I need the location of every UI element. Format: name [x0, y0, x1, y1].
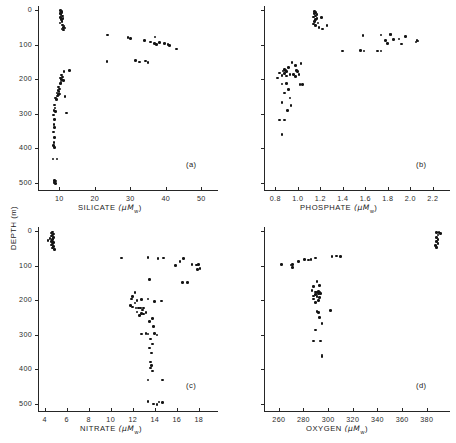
data-point	[56, 158, 59, 161]
data-point	[281, 101, 284, 104]
x-tick-label: 10	[55, 194, 64, 203]
data-point	[376, 50, 379, 53]
data-point	[145, 311, 148, 314]
data-point	[134, 302, 137, 305]
x-axis-unit-a: (μM	[118, 203, 134, 212]
x-axis-label-phosphate: PHOSPHATE (μMw)	[300, 203, 377, 214]
data-point	[314, 24, 317, 27]
x-axis-unit-end-a: )	[139, 203, 142, 212]
data-point	[52, 158, 55, 161]
data-point	[65, 112, 68, 115]
x-tick	[67, 408, 68, 412]
x-tick-label: 280	[297, 415, 310, 424]
data-point	[380, 50, 383, 53]
x-tick	[45, 408, 46, 412]
x-axis-label-oxygen: OXYGEN (μMw)	[306, 424, 368, 435]
x-axis-title-a: SILICATE	[78, 203, 116, 212]
data-point	[106, 60, 109, 63]
x-tick	[59, 187, 60, 191]
data-point	[341, 50, 344, 53]
data-point	[152, 403, 155, 406]
panel-c: 01002003004005004681012141618 (c) NITRAT…	[0, 221, 228, 443]
x-axis-unit-end-d: )	[365, 424, 368, 433]
y-axis-spine	[38, 6, 39, 191]
x-axis-unit-c: (μM	[118, 424, 134, 433]
y-tick-label: 100	[19, 261, 32, 270]
data-point	[129, 37, 132, 40]
data-point	[55, 98, 58, 101]
data-point	[437, 242, 440, 245]
x-tick	[377, 408, 378, 412]
data-point	[53, 104, 56, 107]
x-tick	[111, 408, 112, 412]
y-tick-label: 300	[19, 109, 32, 118]
data-point	[106, 34, 109, 37]
y-tick	[261, 404, 265, 405]
panel-a: 01002003004005001020304050 (a) SILICATE …	[0, 0, 228, 222]
data-point	[120, 257, 123, 260]
data-point	[191, 263, 194, 266]
data-point	[289, 73, 292, 76]
x-axis-title-b: PHOSPHATE	[300, 203, 351, 212]
data-point	[151, 370, 154, 373]
data-point	[131, 306, 134, 309]
y-tick	[35, 183, 39, 184]
data-point	[415, 41, 418, 44]
data-point	[287, 66, 290, 69]
data-point	[149, 41, 152, 44]
x-axis-unit-d: (μM	[344, 424, 360, 433]
data-point	[175, 48, 178, 51]
x-axis-spine	[38, 190, 218, 191]
data-point	[143, 39, 146, 42]
data-point	[314, 301, 317, 304]
x-axis-unit-end-c: )	[139, 424, 142, 433]
data-point	[317, 22, 320, 25]
data-point	[314, 329, 317, 332]
x-tick-label: 6	[64, 415, 68, 424]
data-point	[386, 42, 389, 45]
x-tick	[89, 408, 90, 412]
x-tick-label: 12	[128, 415, 137, 424]
x-axis-label-silicate: SILICATE (μMw)	[78, 203, 142, 214]
data-point	[130, 298, 133, 301]
data-point	[157, 257, 160, 260]
x-tick	[433, 187, 434, 191]
y-tick-label: 300	[19, 330, 32, 339]
x-tick-label: 50	[197, 194, 206, 203]
x-tick-label: 14	[150, 415, 159, 424]
data-point	[149, 338, 152, 341]
x-axis-spine	[264, 411, 450, 412]
data-point	[390, 33, 393, 36]
data-point	[148, 278, 151, 281]
panel-b: 0.81.01.21.41.61.82.02.2 (b) PHOSPHATE (…	[228, 0, 456, 222]
x-tick-label: 0.8	[270, 194, 281, 203]
y-tick	[261, 79, 265, 80]
data-point	[186, 281, 189, 284]
x-tick-label: 1.2	[315, 194, 326, 203]
data-point	[64, 95, 67, 98]
x-tick-label: 20	[91, 194, 100, 203]
data-point	[196, 268, 199, 271]
x-tick	[95, 187, 96, 191]
x-tick-label: 1.6	[360, 194, 371, 203]
data-point	[339, 255, 342, 258]
y-tick	[261, 231, 265, 232]
x-tick-label: 1.4	[337, 194, 348, 203]
data-point	[331, 255, 334, 258]
y-tick	[35, 300, 39, 301]
y-tick-label: 500	[19, 178, 32, 187]
y-tick	[35, 404, 39, 405]
y-tick	[261, 369, 265, 370]
panel-label-c: (c)	[186, 381, 196, 390]
data-point	[312, 298, 315, 301]
x-tick	[166, 187, 167, 191]
x-tick	[201, 187, 202, 191]
y-tick	[261, 183, 265, 184]
data-point	[362, 34, 365, 37]
x-axis-title-d: OXYGEN	[306, 424, 342, 433]
panel-label-a: (a)	[186, 160, 196, 169]
data-point	[281, 133, 284, 136]
data-point	[147, 333, 150, 336]
data-point	[316, 280, 319, 283]
data-point	[53, 126, 56, 129]
